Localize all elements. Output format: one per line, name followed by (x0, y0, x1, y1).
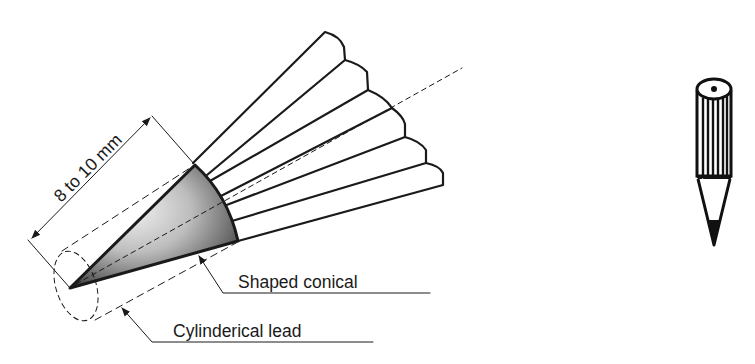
callout-shaped-conical: Shaped conical (199, 256, 430, 293)
shaped-cone (70, 165, 238, 288)
callout-label-shaped-conical: Shaped conical (238, 272, 358, 292)
pencil-point-diagram: 8 to 10 mm Shaped conical Cylinderical l… (0, 0, 755, 364)
pencil-icon (697, 79, 731, 245)
center-axis (76, 68, 462, 284)
callout-cylindrical-lead: Cylinderical lead (122, 308, 373, 342)
dimension-label: 8 to 10 mm (50, 130, 126, 206)
callout-label-cylindrical-lead: Cylinderical lead (173, 321, 301, 341)
pencil-wood-ridges (193, 32, 443, 241)
